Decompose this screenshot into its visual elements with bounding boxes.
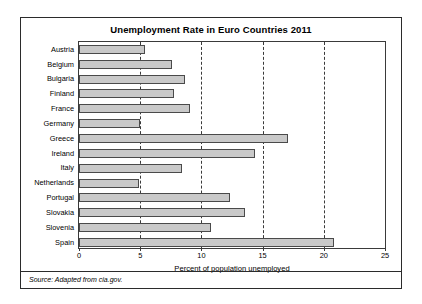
bar-row: Netherlands: [79, 176, 385, 191]
y-axis-tick-label: Bulgaria: [47, 75, 74, 82]
bar: [79, 45, 145, 54]
chart-title: Unemployment Rate in Euro Countries 2011: [21, 24, 401, 35]
bar: [79, 208, 245, 217]
y-axis-tick-label: Italy: [60, 164, 74, 171]
bar: [79, 60, 172, 69]
bar-row: Portugal: [79, 190, 385, 205]
bar: [79, 75, 185, 84]
bar-row: Greece: [79, 131, 385, 146]
y-axis-tick-label: Slovakia: [46, 209, 74, 216]
bar-row: Slovakia: [79, 205, 385, 220]
y-axis-tick-label: Portugal: [46, 194, 74, 201]
bar: [79, 238, 334, 247]
y-axis-tick-label: France: [51, 105, 74, 112]
bar: [79, 89, 174, 98]
y-axis-tick-label: Ireland: [51, 150, 74, 157]
bar-row: Bulgaria: [79, 72, 385, 87]
x-axis-tick-label: 0: [77, 251, 81, 260]
x-axis-tick-label: 25: [381, 251, 389, 260]
x-axis-tick-label: 5: [138, 251, 142, 260]
bar-row: Belgium: [79, 57, 385, 72]
x-axis-tick-label: 20: [320, 251, 328, 260]
bar: [79, 164, 182, 173]
y-axis-tick-label: Austria: [51, 46, 74, 53]
y-axis-tick-label: Finland: [50, 90, 74, 97]
y-axis-tick-label: Slovenia: [46, 224, 74, 231]
bar: [79, 104, 190, 113]
bar-row: Italy: [79, 161, 385, 176]
bar-rows: AustriaBelgiumBulgariaFinlandFranceGerma…: [79, 42, 385, 248]
bar-row: Germany: [79, 116, 385, 131]
x-axis-tick-label: 15: [258, 251, 266, 260]
y-axis-tick-label: Netherlands: [34, 179, 74, 186]
y-axis-tick-label: Greece: [50, 135, 74, 142]
bar-row: France: [79, 101, 385, 116]
bar-row: Finland: [79, 87, 385, 102]
bar-row: Austria: [79, 42, 385, 57]
source-note: Source: Adapted from cia.gov.: [29, 276, 122, 283]
bar: [79, 223, 211, 232]
source-divider: [21, 271, 401, 272]
bar: [79, 193, 230, 202]
x-axis-tick-label: 10: [197, 251, 205, 260]
y-axis-tick-label: Belgium: [47, 61, 74, 68]
chart-figure: Unemployment Rate in Euro Countries 2011…: [20, 17, 402, 289]
bar: [79, 119, 140, 128]
bar-row: Slovenia: [79, 220, 385, 235]
bar: [79, 134, 288, 143]
bar: [79, 179, 139, 188]
y-axis-tick-label: Germany: [44, 120, 74, 127]
bar-row: Ireland: [79, 146, 385, 161]
bar-row: Spain: [79, 235, 385, 250]
bar: [79, 149, 255, 158]
plot-area: AustriaBelgiumBulgariaFinlandFranceGerma…: [78, 41, 386, 249]
y-axis-tick-label: Spain: [55, 239, 74, 246]
